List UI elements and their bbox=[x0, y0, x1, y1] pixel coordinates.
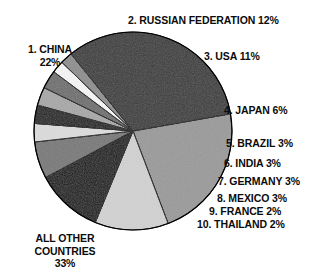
slice-label-germany: 7. GERMANY 3% bbox=[218, 175, 300, 188]
slice-label-mexico: 8. MEXICO 3% bbox=[217, 192, 287, 205]
slice-label-usa: 3. USA 11% bbox=[204, 50, 260, 63]
slice-label-france: 9. FRANCE 2% bbox=[209, 205, 281, 218]
slice-label-russian-federation: 2. RUSSIAN FEDERATION 12% bbox=[128, 14, 279, 27]
pie-chart-figure: 1. CHINA 22% 2. RUSSIAN FEDERATION 12% 3… bbox=[0, 0, 317, 274]
slice-label-brazil: 5. BRAZIL 3% bbox=[226, 137, 293, 150]
slice-label-japan: 4. JAPAN 6% bbox=[224, 104, 287, 117]
slice-label-china: 1. CHINA 22% bbox=[10, 43, 90, 68]
slice-label-india: 6. INDIA 3% bbox=[224, 157, 281, 170]
slice-label-thailand: 10. THAILAND 2% bbox=[197, 218, 285, 231]
slice-label-all-other-countries: ALL OTHER COUNTRIES 33% bbox=[22, 232, 108, 270]
